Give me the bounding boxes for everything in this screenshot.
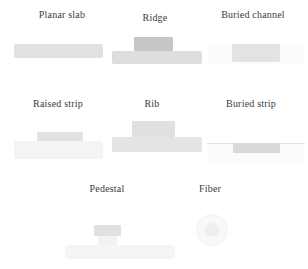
pedestal-label: Pedestal	[59, 183, 155, 194]
raised-strip-core-shape	[37, 132, 83, 141]
ridge-slab-shape	[112, 51, 202, 64]
rib-block-shape	[132, 121, 175, 137]
fiber-label: Fiber	[162, 183, 258, 194]
buried-channel-label: Buried channel	[205, 9, 301, 20]
planar-slab-label: Planar slab	[14, 9, 110, 20]
fiber-core-shape	[205, 223, 219, 237]
planar-slab-shape	[14, 44, 103, 58]
pedestal-substrate-shape	[65, 245, 175, 259]
waveguide-types-figure: Planar slab Ridge Buried channel Raised …	[0, 0, 308, 269]
raised-strip-substrate-shape	[14, 141, 103, 159]
pedestal-block-shape	[94, 225, 121, 236]
buried-strip-core-shape	[233, 143, 280, 153]
ridge-block-shape	[134, 37, 173, 51]
rib-label: Rib	[112, 98, 192, 109]
buried-strip-label: Buried strip	[205, 98, 297, 109]
ridge-label: Ridge	[112, 12, 198, 23]
buried-channel-core-shape	[232, 44, 280, 62]
rib-slab-shape	[112, 137, 202, 152]
pedestal-stem-shape	[98, 236, 117, 245]
raised-strip-label: Raised strip	[10, 98, 106, 109]
